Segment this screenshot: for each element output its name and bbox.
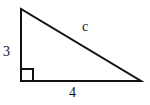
triangle-diagram: 3 c 4 — [0, 0, 150, 105]
hypotenuse-label: c — [82, 20, 88, 34]
horizontal-leg-label: 4 — [69, 86, 76, 100]
vertical-leg-label: 3 — [3, 45, 10, 59]
triangle-shape — [21, 9, 141, 81]
right-angle-marker — [21, 69, 33, 81]
